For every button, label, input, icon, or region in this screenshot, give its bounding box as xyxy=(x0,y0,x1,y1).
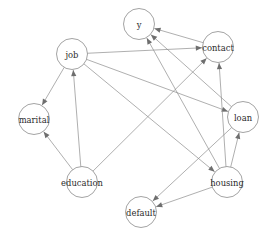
edge-education-to-marital xyxy=(44,132,73,170)
node-label-housing: housing xyxy=(210,178,244,188)
edge-housing-to-contact xyxy=(217,63,226,167)
edge-line xyxy=(73,70,81,167)
node-label-y: y xyxy=(136,20,142,30)
node-marital[interactable]: marital xyxy=(19,104,50,135)
node-housing[interactable]: housing xyxy=(210,167,244,198)
node-loan[interactable]: loan xyxy=(228,102,259,133)
node-label-default: default xyxy=(126,208,156,218)
node-label-marital: marital xyxy=(19,115,50,125)
node-education[interactable]: education xyxy=(61,167,103,198)
edge-line xyxy=(44,132,73,170)
graph-svg: ycontactjobmaritalloaneducationhousingde… xyxy=(0,0,271,233)
edge-contact-to-y xyxy=(154,28,203,43)
arrow-head xyxy=(196,45,202,50)
arrow-head xyxy=(217,63,222,69)
edge-job-to-contact xyxy=(87,45,202,53)
arrow-head xyxy=(71,70,76,76)
edge-job-to-housing xyxy=(84,64,215,172)
edge-line xyxy=(154,28,203,42)
arrow-head xyxy=(154,28,161,33)
edge-education-to-job xyxy=(71,70,81,167)
edge-line xyxy=(84,64,215,172)
edge-line xyxy=(219,63,226,167)
arrow-head xyxy=(42,99,47,106)
arrow-head xyxy=(44,132,50,139)
edge-job-to-loan xyxy=(87,59,228,111)
edge-job-to-marital xyxy=(42,67,64,105)
node-y[interactable]: y xyxy=(124,9,155,40)
arrow-head xyxy=(156,202,163,207)
edge-line xyxy=(87,59,228,111)
node-label-contact: contact xyxy=(202,43,234,53)
arrow-head xyxy=(147,38,152,45)
edge-line xyxy=(87,48,202,53)
node-job[interactable]: job xyxy=(57,39,88,70)
edge-housing-to-loan xyxy=(231,133,241,167)
arrow-head xyxy=(235,133,240,140)
node-label-loan: loan xyxy=(234,113,253,123)
node-label-job: job xyxy=(64,50,78,60)
node-default[interactable]: default xyxy=(126,197,157,228)
node-label-education: education xyxy=(61,178,103,188)
graph-canvas: ycontactjobmaritalloaneducationhousingde… xyxy=(0,0,271,233)
node-contact[interactable]: contact xyxy=(202,32,234,63)
arrow-head xyxy=(208,166,214,172)
edge-line xyxy=(42,67,64,105)
